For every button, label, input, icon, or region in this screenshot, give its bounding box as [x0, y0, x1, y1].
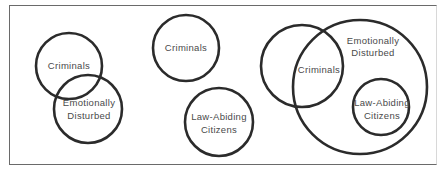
- label-criminals: Criminals: [298, 64, 340, 75]
- venn-panel-nested: Criminals Emotionally Disturbed Law-Abid…: [261, 20, 427, 154]
- label-citizens: Citizens: [201, 124, 237, 135]
- label-law-abiding: Law-Abiding: [354, 97, 410, 108]
- venn-panel-disjoint: Criminals Law-Abiding Citizens: [153, 15, 253, 156]
- label-criminals: Criminals: [165, 42, 207, 53]
- label-disturbed: Disturbed: [351, 47, 394, 58]
- label-disturbed: Disturbed: [67, 110, 110, 121]
- label-emotionally: Emotionally: [347, 35, 399, 46]
- circle-law-abiding-citizens: [185, 88, 253, 156]
- label-criminals: Criminals: [48, 60, 90, 71]
- label-emotionally: Emotionally: [63, 97, 115, 108]
- venn-diagram: Criminals Emotionally Disturbed Criminal…: [0, 0, 440, 170]
- label-law-abiding: Law-Abiding: [191, 111, 247, 122]
- venn-panel-overlap: Criminals Emotionally Disturbed: [36, 33, 122, 143]
- label-citizens: Citizens: [364, 110, 400, 121]
- circle-emotionally-disturbed: [54, 75, 122, 143]
